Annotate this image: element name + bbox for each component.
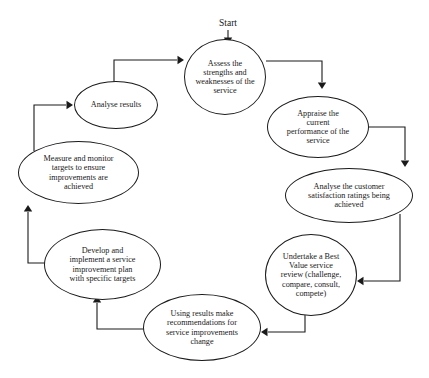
edge-using-results-to-develop	[97, 303, 148, 329]
arrowhead-measure-to-analyse-results	[67, 101, 74, 109]
node-label-develop: Develop and implement a service improvem…	[49, 246, 156, 283]
node-develop: Develop and implement a service improvem…	[44, 229, 161, 300]
edge-analyse-customer-to-undertake	[364, 214, 400, 281]
edge-assess-to-appraise	[266, 61, 322, 82]
node-assess: Assess the strengths and weaknesses of t…	[184, 39, 266, 115]
node-label-analyse-customer: Analyse the customer satisfaction rating…	[290, 182, 408, 210]
node-analyse-results: Analyse results	[74, 81, 158, 129]
arrowhead-develop-to-measure	[24, 205, 32, 212]
arrowhead-undertake-to-using-results	[261, 328, 268, 336]
arrowhead-assess-to-appraise	[318, 83, 326, 90]
arrowhead-analyse-customer-to-undertake	[357, 277, 364, 285]
arrowhead-analyse-results-to-assess	[178, 56, 185, 64]
edge-analyse-results-to-assess	[114, 60, 177, 82]
node-label-undertake: Undertake a Best Value service review (c…	[270, 252, 352, 298]
node-undertake: Undertake a Best Value service review (c…	[265, 234, 357, 316]
node-measure: Measure and monitor targets to ensure im…	[18, 141, 139, 204]
node-label-using-results: Using results make recommendations for s…	[148, 309, 256, 346]
node-appraise: Appraise the current performance of the …	[267, 96, 369, 158]
diagram-canvas: Start Assess the strengths and weaknesse…	[0, 0, 429, 378]
start-label: Start	[188, 18, 268, 28]
node-label-assess: Assess the strengths and weaknesses of t…	[189, 59, 261, 96]
edge-appraise-to-analyse-customer	[369, 127, 405, 160]
node-label-appraise: Appraise the current performance of the …	[272, 109, 364, 146]
node-analyse-customer: Analyse the customer satisfaction rating…	[285, 168, 413, 223]
arrowhead-appraise-to-analyse-customer	[401, 161, 409, 168]
node-label-analyse-results: Analyse results	[79, 100, 153, 109]
node-using-results: Using results make recommendations for s…	[143, 294, 261, 361]
node-label-measure: Measure and monitor targets to ensure im…	[23, 154, 134, 191]
edge-undertake-to-using-results	[268, 314, 305, 332]
